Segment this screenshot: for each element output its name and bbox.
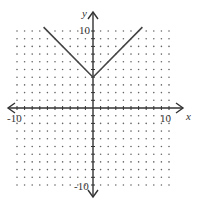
grid-dot (130, 184, 132, 186)
grid-dot (168, 138, 170, 140)
grid-dot (39, 169, 41, 171)
grid-dot (123, 146, 125, 148)
grid-dot (16, 146, 18, 148)
grid-dot (77, 100, 79, 102)
grid-dot (130, 169, 132, 171)
grid-dot (168, 46, 170, 48)
grid-dot (31, 161, 33, 163)
grid-dot (153, 169, 155, 171)
grid-dot (161, 84, 163, 86)
grid-dot (138, 138, 140, 140)
grid-dot (100, 153, 102, 155)
grid-dot (161, 169, 163, 171)
grid-dot (16, 61, 18, 63)
grid-dot (100, 146, 102, 148)
grid-dot (145, 38, 147, 40)
grid-dot (115, 92, 117, 94)
grid-dot (115, 130, 117, 132)
grid-dot (130, 177, 132, 179)
grid-dot (77, 38, 79, 40)
grid-dot (107, 115, 109, 117)
grid-dot (130, 146, 132, 148)
grid-dot (69, 115, 71, 117)
grid-dot (138, 184, 140, 186)
grid-dot (153, 130, 155, 132)
grid-dot (69, 76, 71, 78)
grid-dot (130, 115, 132, 117)
grid-dot (24, 61, 26, 63)
grid-dot (161, 76, 163, 78)
grid-dot (39, 184, 41, 186)
grid-dot (39, 138, 41, 140)
grid-dot (138, 169, 140, 171)
grid-dot (145, 123, 147, 125)
grid-dot (161, 46, 163, 48)
grid-dot (39, 146, 41, 148)
grid-dot (107, 53, 109, 55)
grid-dot (123, 69, 125, 71)
grid-dot (47, 161, 49, 163)
grid-dot (54, 123, 56, 125)
grid-dot (31, 76, 33, 78)
grid-dot (123, 153, 125, 155)
grid-dot (85, 169, 87, 171)
grid-dot (107, 100, 109, 102)
grid-dot (115, 61, 117, 63)
grid-dot (62, 84, 64, 86)
grid-dot (39, 76, 41, 78)
grid-dot (24, 123, 26, 125)
grid-dot (31, 115, 33, 117)
grid-dot (145, 76, 147, 78)
grid-dot (138, 123, 140, 125)
grid-dot (107, 138, 109, 140)
grid-dot (107, 84, 109, 86)
grid-dot (16, 130, 18, 132)
grid-dot (130, 130, 132, 132)
grid-dot (16, 69, 18, 71)
grid-dot (47, 146, 49, 148)
grid-dot (39, 69, 41, 71)
grid-dot (123, 161, 125, 163)
grid-dot (47, 46, 49, 48)
grid-dot (47, 69, 49, 71)
grid-dot (123, 100, 125, 102)
grid-dot (69, 46, 71, 48)
x-max-tick-label: 10 (160, 112, 172, 124)
grid-dot (62, 161, 64, 163)
grid-dot (168, 177, 170, 179)
grid-dot (54, 100, 56, 102)
grid-dot (161, 153, 163, 155)
grid-dot (62, 69, 64, 71)
grid-dot (115, 123, 117, 125)
grid-dot (85, 146, 87, 148)
grid-dot (115, 146, 117, 148)
grid-dot (77, 46, 79, 48)
grid-dot (47, 138, 49, 140)
grid-dot (168, 61, 170, 63)
grid-dot (153, 146, 155, 148)
grid-dot (123, 169, 125, 171)
grid-dot (107, 153, 109, 155)
grid-dot (145, 69, 147, 71)
grid-dot (145, 46, 147, 48)
grid-dot (31, 169, 33, 171)
grid-dot (130, 92, 132, 94)
grid-dot (39, 38, 41, 40)
grid-dot (39, 92, 41, 94)
grid-dot (153, 138, 155, 140)
grid-dot (54, 92, 56, 94)
grid-dot (77, 169, 79, 171)
grid-dot (47, 61, 49, 63)
grid-dot (69, 123, 71, 125)
grid-dot (54, 84, 56, 86)
grid-dot (62, 100, 64, 102)
grid-dot (69, 161, 71, 163)
grid-dot (31, 177, 33, 179)
grid-dot (138, 161, 140, 163)
grid-dot (24, 177, 26, 179)
grid-dot (62, 30, 64, 32)
grid-dot (47, 76, 49, 78)
grid-dot (16, 84, 18, 86)
grid-dot (115, 115, 117, 117)
graph-canvas: y x 10 -10 -10 10 (0, 0, 199, 203)
